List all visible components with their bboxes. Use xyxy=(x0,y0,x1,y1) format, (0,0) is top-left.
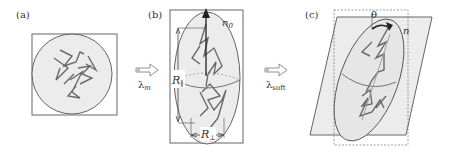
panel-a: (a) xyxy=(16,9,117,115)
transition-arrow-2: λsoft xyxy=(265,64,287,92)
panel-a-label: (a) xyxy=(16,9,30,20)
panel-b-label: (b) xyxy=(148,9,162,20)
panel-b: (b) n0 R∥ R⊥ xyxy=(148,8,243,144)
theta-label: θ xyxy=(371,9,377,20)
isotropic-sphere xyxy=(32,34,112,114)
svg-text:λsoft: λsoft xyxy=(266,79,286,92)
director-label-n: n xyxy=(403,25,409,36)
transition-arrow-1: λm xyxy=(136,64,158,92)
panel-c-label: (c) xyxy=(305,9,319,20)
panel-c: (c) θ n xyxy=(305,9,432,150)
figure-canvas: (a) λm (b) n0 xyxy=(0,0,452,152)
svg-text:λm: λm xyxy=(138,79,151,92)
